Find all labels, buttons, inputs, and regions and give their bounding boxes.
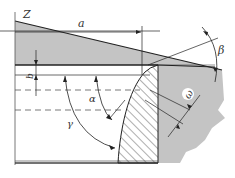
gamma-arc — [65, 76, 115, 148]
alpha-arc — [96, 76, 112, 120]
hatched-section — [118, 65, 158, 163]
label-beta: β — [217, 44, 224, 57]
alpha-arrow-top — [94, 76, 98, 82]
label-b: b — [25, 73, 35, 79]
diagram-canvas: Z a b α γ β ω — [0, 0, 235, 178]
gamma-arrow-top — [63, 76, 67, 82]
label-gamma: γ — [67, 118, 73, 129]
label-alpha: α — [89, 93, 96, 104]
beta-arrow-top — [203, 31, 208, 36]
label-a: a — [78, 17, 85, 30]
dim-a-arrow — [136, 30, 141, 34]
label-z: Z — [22, 8, 31, 21]
alpha-ref-line — [110, 100, 125, 118]
workpiece-body — [158, 65, 225, 163]
